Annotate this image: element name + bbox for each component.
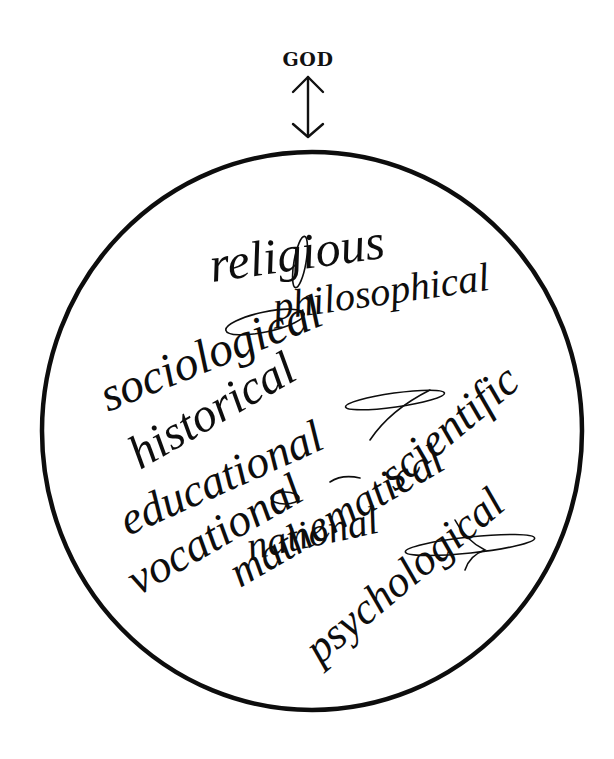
words-cluster: religious philosophical sociological his… (92, 213, 536, 675)
god-label: GOD (283, 48, 334, 70)
double-arrow-icon (293, 77, 323, 137)
diagram-canvas: GOD religious philosophical sociological… (0, 0, 614, 759)
